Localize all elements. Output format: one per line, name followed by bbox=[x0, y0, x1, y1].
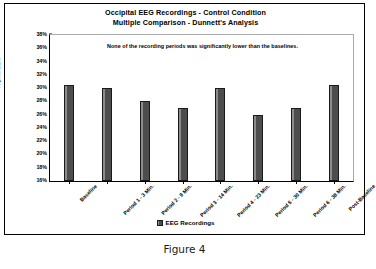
bar-slot bbox=[88, 35, 126, 181]
bar[interactable] bbox=[140, 101, 150, 181]
bar[interactable] bbox=[291, 108, 301, 181]
y-tick-label: 22% bbox=[36, 137, 47, 143]
y-tick-label: 20% bbox=[36, 150, 47, 156]
bar[interactable] bbox=[215, 88, 225, 181]
figure-caption: Figure 4 bbox=[0, 243, 369, 255]
y-axis-title: Alpha EEG bbox=[0, 57, 1, 88]
bar-slot bbox=[126, 35, 164, 181]
y-tick-label: 24% bbox=[36, 124, 47, 130]
x-tick-label: Post-Baseline bbox=[347, 183, 376, 212]
bar-slot bbox=[315, 35, 353, 181]
bar-slot bbox=[50, 35, 88, 181]
chart-title: Occipital EEG Recordings - Control Condi… bbox=[5, 8, 366, 18]
y-tick-label: 30% bbox=[36, 84, 47, 90]
chart-legend: EEG Recordings bbox=[5, 219, 366, 226]
x-tick-label: Period 4 - 23 Min. bbox=[236, 183, 271, 218]
bar-slot bbox=[202, 35, 240, 181]
x-tick-label: Period 2 - 9 Min. bbox=[160, 183, 193, 216]
bar[interactable] bbox=[329, 85, 339, 181]
chart-frame: Occipital EEG Recordings - Control Condi… bbox=[4, 3, 365, 235]
bar[interactable] bbox=[102, 88, 112, 181]
x-tick-label: Period 3 - 14 Min. bbox=[198, 183, 233, 218]
y-tick-label: 16% bbox=[36, 177, 47, 183]
bar[interactable] bbox=[253, 115, 263, 181]
chart-subtitle: Multiple Comparison - Dunnett's Analysis bbox=[5, 18, 366, 28]
bar-slot bbox=[239, 35, 277, 181]
x-tick-label: Period 6 - 38 Min. bbox=[312, 183, 347, 218]
y-tick-label: 32% bbox=[36, 71, 47, 77]
bar[interactable] bbox=[64, 85, 74, 181]
x-tick-label: Period 5 - 30 Min. bbox=[274, 183, 309, 218]
y-tick-label: 18% bbox=[36, 164, 47, 170]
legend-label: EEG Recordings bbox=[166, 219, 215, 226]
chart-titles: Occipital EEG Recordings - Control Condi… bbox=[5, 8, 366, 27]
legend-swatch-icon bbox=[157, 220, 163, 226]
y-tick-label: 34% bbox=[36, 58, 47, 64]
bar-series bbox=[50, 35, 353, 181]
bar-slot bbox=[277, 35, 315, 181]
y-tick-label: 36% bbox=[36, 44, 47, 50]
x-tick-label: Period 1 - 3 Min. bbox=[122, 183, 155, 216]
y-tick-label: 26% bbox=[36, 111, 47, 117]
y-tick-label: 28% bbox=[36, 97, 47, 103]
y-tick-label: 38% bbox=[36, 31, 47, 37]
plot-area: None of the recording periods was signif… bbox=[49, 34, 354, 182]
bar-slot bbox=[164, 35, 202, 181]
bar[interactable] bbox=[178, 108, 188, 181]
x-tick-label: Baseline bbox=[78, 183, 98, 203]
